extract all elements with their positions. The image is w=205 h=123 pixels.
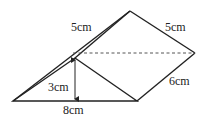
label-slant-back: 5cm: [165, 20, 186, 34]
ridge-apex-edge: [75, 11, 130, 58]
label-base: 8cm: [63, 103, 84, 117]
prism-diagram: 5cm 5cm 6cm 3cm 8cm: [0, 0, 205, 123]
label-length: 6cm: [169, 74, 190, 88]
label-slant-front: 5cm: [71, 20, 92, 34]
label-height: 3cm: [48, 80, 69, 94]
